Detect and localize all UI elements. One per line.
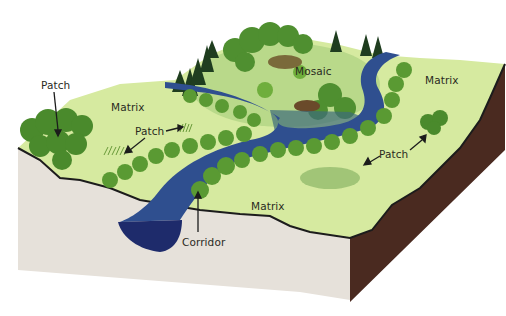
label-mosaic: Mosaic: [295, 66, 332, 77]
label-patch-center-left: Patch: [135, 126, 164, 137]
label-patch-right: Patch: [379, 149, 408, 160]
label-matrix-right: Matrix: [425, 75, 459, 86]
label-matrix-bottom: Matrix: [251, 201, 285, 212]
label-patch-top-left: Patch: [41, 80, 70, 91]
mosaic-clearing-bottom: [294, 100, 320, 112]
label-corridor: Corridor: [182, 237, 225, 248]
shrub-patch: [300, 167, 360, 189]
landscape-block-diagram: [0, 0, 506, 316]
label-matrix-left: Matrix: [111, 102, 145, 113]
